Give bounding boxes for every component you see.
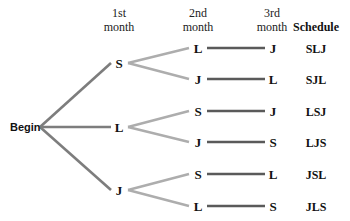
second-month-node-s: S (194, 104, 201, 119)
edge-begin-to-j (40, 127, 111, 190)
third-month-node-s: S (269, 199, 276, 214)
schedule-label-sjl: SJL (306, 73, 327, 87)
edge-l-to-s (128, 111, 189, 127)
header-first-month-line2: month (104, 20, 135, 34)
third-month-node-j: J (270, 41, 277, 56)
tree-nodes: SLJSLJJLSJLLSJLSJJSLJSJSLJSLLSJLS (115, 41, 327, 214)
first-month-node-l: L (115, 120, 124, 135)
edge-s-to-l (128, 48, 189, 63)
root-node-begin: Begin (10, 121, 41, 133)
third-month-node-s: S (269, 135, 276, 150)
schedule-label-jls: JLS (306, 200, 327, 214)
edge-begin-to-s (40, 63, 111, 127)
header-first-month-line1: 1st (112, 6, 127, 20)
third-month-node-j: J (270, 104, 277, 119)
second-month-node-l: L (194, 41, 203, 56)
header-second-month-line1: 2nd (189, 6, 207, 20)
first-month-node-s: S (115, 56, 122, 71)
tree-edges (40, 48, 265, 206)
third-month-node-l: L (269, 167, 278, 182)
schedule-label-jsl: JSL (306, 168, 327, 182)
header-third-month-line1: 3rd (264, 6, 280, 20)
schedule-label-slj: SLJ (306, 42, 327, 56)
edge-s-to-j (128, 63, 189, 79)
edge-j-to-s (128, 174, 189, 190)
third-month-node-l: L (269, 72, 278, 87)
second-month-node-j: J (195, 135, 202, 150)
schedule-tree-diagram: 1st month 2nd month 3rd month Schedule B… (0, 0, 350, 221)
header-third-month-line2: month (257, 20, 288, 34)
second-month-node-j: J (195, 72, 202, 87)
first-month-node-j: J (116, 183, 123, 198)
edge-l-to-j (128, 127, 189, 142)
schedule-label-ljs: LJS (306, 136, 327, 150)
second-month-node-s: S (194, 167, 201, 182)
schedule-label-lsj: LSJ (306, 105, 327, 119)
second-month-node-l: L (194, 199, 203, 214)
edge-j-to-l (128, 190, 189, 206)
header-second-month-line2: month (183, 20, 214, 34)
header-schedule: Schedule (293, 20, 340, 34)
